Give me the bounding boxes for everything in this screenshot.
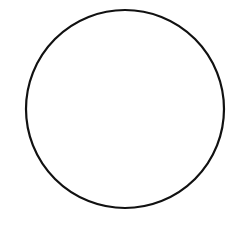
diagram-canvas	[0, 0, 249, 238]
circle-outline	[26, 10, 224, 208]
